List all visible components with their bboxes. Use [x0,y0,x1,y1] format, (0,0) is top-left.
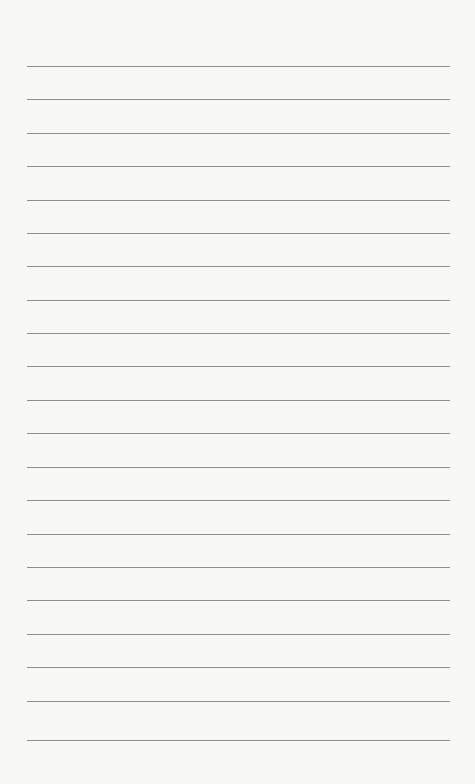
ruled-line [27,667,450,668]
ruled-line [27,433,450,434]
ruled-line [27,500,450,501]
ruled-line [27,567,450,568]
ruled-line [27,366,450,367]
ruled-line [27,266,450,267]
ruled-line [27,300,450,301]
ruled-line [27,99,450,100]
ruled-line [27,133,450,134]
lined-paper-sheet [0,0,475,784]
ruled-line [27,400,450,401]
ruled-line [27,166,450,167]
ruled-line [27,233,450,234]
ruled-line [27,701,450,702]
ruled-line [27,534,450,535]
ruled-line [27,333,450,334]
ruled-line [27,740,450,741]
ruled-line [27,200,450,201]
ruled-line [27,634,450,635]
ruled-line [27,600,450,601]
ruled-line [27,66,450,67]
ruled-line [27,467,450,468]
